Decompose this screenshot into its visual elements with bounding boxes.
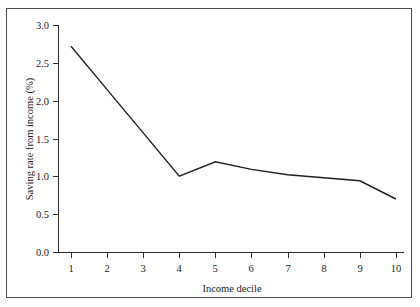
x-axis-title: Income decile	[202, 283, 262, 294]
y-tick-label: 2.0	[36, 96, 49, 107]
y-axis-title: Saving rate from income (%)	[24, 77, 36, 200]
y-tick-label: 2.5	[36, 58, 49, 69]
x-tick-label: 1	[68, 263, 73, 274]
x-tick-label: 6	[248, 263, 253, 274]
x-axis-tick-labels: 1 2 3 4 5 6 7 8 9 10	[68, 263, 401, 274]
y-axis-ticks	[53, 26, 58, 253]
x-tick-label: 4	[176, 263, 182, 274]
y-tick-label: 0.0	[36, 247, 49, 258]
y-tick-label: 1.0	[36, 171, 49, 182]
y-tick-label: 0.5	[36, 209, 49, 220]
x-tick-label: 2	[104, 263, 109, 274]
x-tick-label: 10	[391, 263, 402, 274]
y-tick-label: 3.0	[36, 20, 49, 31]
y-axis-tick-labels: 0.0 0.5 1.0 1.5 2.0 2.5 3.0	[36, 20, 49, 258]
chart-figure: 0.0 0.5 1.0 1.5 2.0 2.5 3.0 1 2 3 4	[0, 0, 420, 307]
y-tick-label: 1.5	[36, 134, 49, 145]
x-axis-ticks	[72, 253, 397, 258]
x-tick-label: 9	[357, 263, 362, 274]
x-tick-label: 7	[285, 263, 290, 274]
x-tick-label: 5	[212, 263, 217, 274]
line-chart-plot: 0.0 0.5 1.0 1.5 2.0 2.5 3.0 1 2 3 4	[0, 0, 420, 307]
plot-area-background	[58, 25, 404, 253]
x-tick-label: 8	[321, 263, 326, 274]
x-tick-label: 3	[140, 263, 145, 274]
